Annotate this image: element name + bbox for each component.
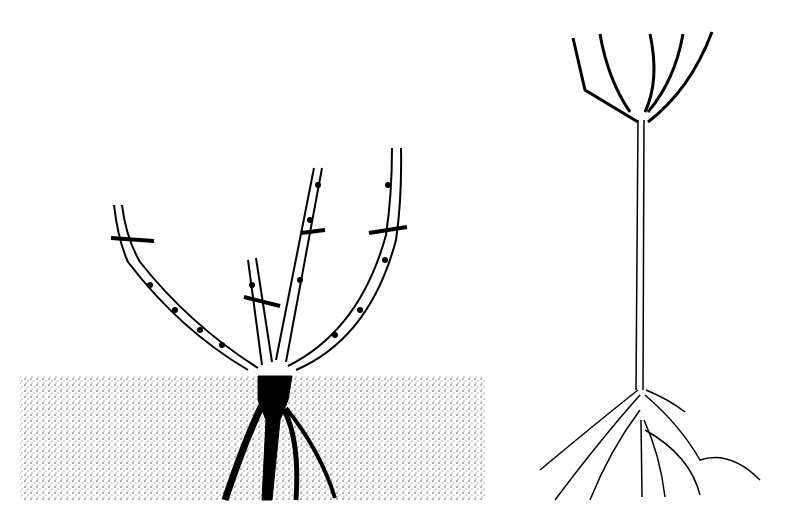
soil [20, 376, 486, 500]
standard-rose [540, 32, 760, 500]
bush-rose [20, 148, 486, 500]
crown [573, 32, 712, 122]
rose-pruning-illustration [0, 0, 790, 522]
roots-icon [540, 390, 760, 500]
canes [114, 148, 401, 370]
